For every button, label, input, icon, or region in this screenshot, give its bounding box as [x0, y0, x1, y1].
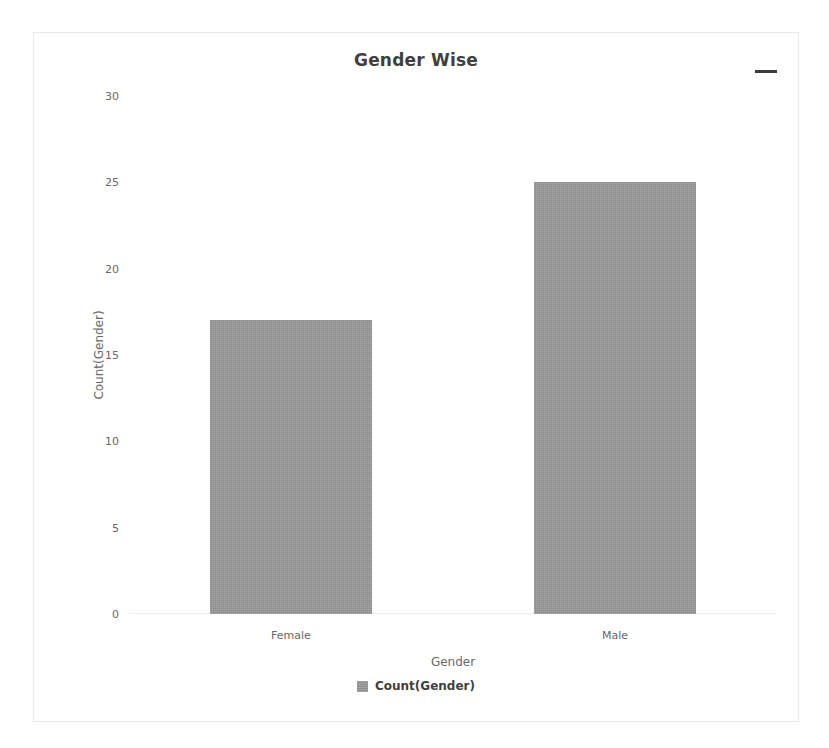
- y-axis-tick-0: 0: [112, 608, 119, 621]
- chart-card: Gender Wise Count(Gender) 051015202530 F…: [33, 32, 799, 722]
- bar-female[interactable]: [210, 320, 372, 614]
- legend-item-count-gender[interactable]: Count(Gender): [357, 679, 475, 693]
- y-axis-tick-30: 30: [105, 90, 119, 103]
- x-axis-title: Gender: [129, 655, 777, 669]
- bar-series: [129, 96, 777, 614]
- bar-column: [210, 96, 372, 614]
- y-axis-tick-10: 10: [105, 435, 119, 448]
- y-axis-tick-15: 15: [105, 349, 119, 362]
- chart-title: Gender Wise: [34, 50, 798, 70]
- x-axis-tick-labels: FemaleMale: [129, 629, 777, 649]
- y-axis-tick-20: 20: [105, 262, 119, 275]
- screenshot-root: Gender Wise Count(Gender) 051015202530 F…: [0, 0, 829, 748]
- hamburger-menu-icon[interactable]: [755, 51, 781, 73]
- y-axis-tick-5: 5: [112, 521, 119, 534]
- legend-label: Count(Gender): [375, 679, 475, 693]
- chart-legend: Count(Gender): [34, 679, 798, 693]
- plot-area: [129, 96, 777, 614]
- bar-column: [534, 96, 696, 614]
- legend-swatch-icon: [357, 681, 368, 692]
- x-axis-tick-female: Female: [271, 629, 311, 642]
- x-axis-tick-male: Male: [602, 629, 628, 642]
- bar-male[interactable]: [534, 182, 696, 614]
- y-axis-ticks: 051015202530: [34, 96, 129, 614]
- hamburger-bar-3: [755, 70, 777, 73]
- y-axis-tick-25: 25: [105, 176, 119, 189]
